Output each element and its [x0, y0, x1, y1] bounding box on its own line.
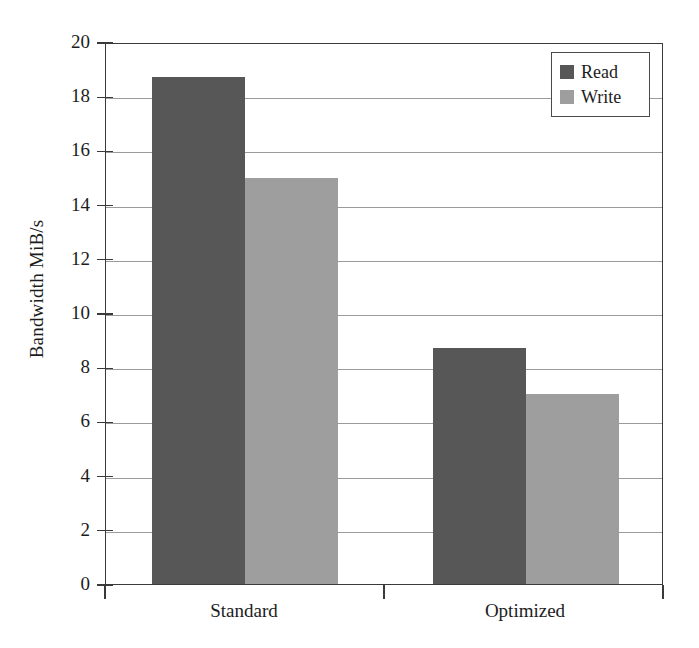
legend-label-write: Write	[581, 88, 621, 106]
y-axis-tick-label: 8	[46, 356, 90, 378]
x-axis-label-optimized: Optimized	[405, 600, 645, 622]
y-axis-tick	[97, 476, 113, 477]
y-axis-tick	[97, 205, 113, 206]
bar-chart-figure: Bandwidth MiB/s 20181614121086420 Standa…	[0, 0, 699, 648]
y-axis-tick	[97, 259, 113, 260]
y-axis-tick-label: 20	[46, 31, 90, 53]
y-axis-tick-label: 10	[46, 302, 90, 324]
y-axis-tick	[97, 313, 113, 314]
bar-standard-read	[152, 77, 245, 584]
y-axis-tick	[97, 97, 113, 98]
x-axis-label-standard: Standard	[124, 600, 364, 622]
y-axis-tick-label: 18	[46, 85, 90, 107]
bar-series-container	[106, 44, 662, 584]
legend-item-read: Read	[560, 59, 649, 84]
y-axis-tick-label: 14	[46, 194, 90, 216]
legend-item-write: Write	[560, 84, 649, 109]
y-axis-tick	[97, 151, 113, 152]
y-axis-tick-label: 4	[46, 465, 90, 487]
plot-area	[105, 43, 663, 585]
y-axis-tick-label: 0	[46, 573, 90, 595]
legend-swatch-write-icon	[560, 90, 574, 104]
y-axis-tick	[97, 42, 113, 43]
legend-label-read: Read	[581, 63, 618, 81]
x-axis-tick	[104, 585, 105, 599]
bar-optimized-write	[526, 394, 619, 584]
y-axis-tick	[97, 422, 113, 423]
y-axis-tick-label: 12	[46, 248, 90, 270]
bar-standard-write	[245, 178, 338, 585]
y-axis-tick	[97, 530, 113, 531]
legend: Read Write	[551, 52, 650, 117]
bar-optimized-read	[433, 348, 526, 584]
x-axis-tick	[662, 585, 663, 599]
y-axis-tick	[97, 368, 113, 369]
y-axis-tick-label: 16	[46, 139, 90, 161]
y-axis-tick-label: 6	[46, 410, 90, 432]
y-axis-tick-label: 2	[46, 519, 90, 541]
legend-swatch-read-icon	[560, 65, 574, 79]
x-axis-tick	[383, 585, 384, 599]
y-axis-title: Bandwidth MiB/s	[26, 189, 48, 389]
